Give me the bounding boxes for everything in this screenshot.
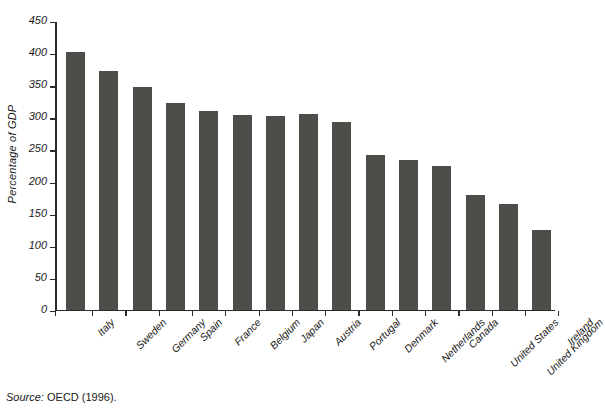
bar [233,115,252,310]
y-tick-label: 0 [41,303,47,315]
x-category-label: Japan [297,316,326,345]
y-tick-label: 250 [29,142,47,154]
bar [133,87,152,309]
bar [532,230,551,310]
y-tick-label: 50 [35,271,47,283]
y-tick-label: 150 [29,207,47,219]
x-category-label: Belgium [267,316,302,351]
x-category-label: Austria [332,316,364,348]
bar [432,166,451,310]
y-axis-title: Percentage of GDP [6,74,18,234]
y-tick-label: 450 [29,14,47,26]
y-tick-label: 350 [29,78,47,90]
y-tick-mark [50,118,55,119]
y-tick-mark [50,279,55,280]
bar [466,195,485,309]
source-text: OECD (1996). [47,391,117,403]
y-tick-mark [50,150,55,151]
x-category-label: Sweden [133,316,168,351]
x-category-label: Denmark [401,316,440,355]
bar [299,114,318,309]
x-category-label: Italy [95,316,117,338]
y-tick-mark [50,215,55,216]
x-axis-line [55,310,555,312]
x-axis-category-labels: ItalySwedenGermanySpainFranceBelgiumJapa… [55,316,555,401]
y-tick-label: 200 [29,175,47,187]
y-tick-label: 300 [29,110,47,122]
bar [332,122,351,310]
bar [66,52,85,310]
bar [99,71,118,309]
y-tick-mark [50,54,55,55]
source-label: Source: [6,391,44,403]
bar [266,116,285,310]
y-axis-line [55,22,57,311]
y-tick-label: 400 [29,46,47,58]
y-tick-label: 100 [29,239,47,251]
bar [399,160,418,310]
x-category-label: Portugal [367,316,403,352]
y-tick-mark [50,22,55,23]
source-note: Source: OECD (1996). [6,391,117,403]
bar [166,103,185,309]
x-tick-mark [558,311,559,316]
y-tick-mark [50,247,55,248]
x-category-label: France [232,316,264,348]
y-tick-mark [50,86,55,87]
plot-area: 050100150200250300350400450 [55,22,555,311]
bar [199,111,218,309]
bar [499,204,518,310]
y-tick-mark [50,183,55,184]
bar [366,155,385,310]
